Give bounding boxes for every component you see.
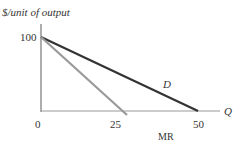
y-axis-label: $/unit of output <box>2 6 71 18</box>
x-tick-25: 25 <box>110 118 122 130</box>
demand-label: D <box>162 78 171 90</box>
demand-curve <box>41 37 198 111</box>
q-axis-label: Q <box>224 105 232 117</box>
x-tick-50: 50 <box>193 118 205 130</box>
chart: $/unit of output 100 0 25 50 Q D MR <box>0 0 245 146</box>
y-tick-100: 100 <box>20 31 37 43</box>
mr-curve <box>41 37 127 115</box>
mr-label: MR <box>158 131 174 142</box>
x-tick-0: 0 <box>35 118 41 130</box>
